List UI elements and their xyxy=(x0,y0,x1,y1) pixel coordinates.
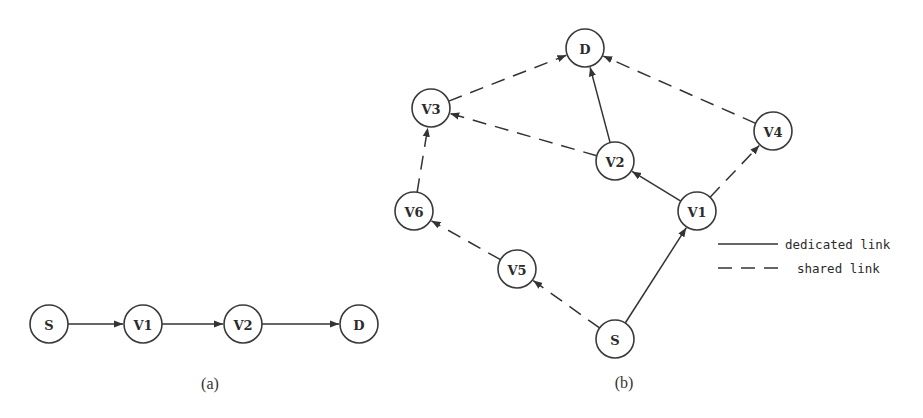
network-topology-figure: SV1V2D (a) DV3V4V2V6V1V5S (b) dedicated … xyxy=(0,0,923,418)
node-v4: V4 xyxy=(754,112,792,150)
subfigure-a: SV1V2D (a) xyxy=(30,305,378,393)
node-label: D xyxy=(353,318,364,333)
node-label: S xyxy=(44,318,53,333)
legend-item-dedicated: dedicated link xyxy=(718,237,891,252)
node-d: D xyxy=(566,29,604,67)
node-v1: V1 xyxy=(678,192,716,230)
node-v3: V3 xyxy=(412,89,450,127)
node-s: S xyxy=(30,305,68,343)
edge-v1-to-v4-shared xyxy=(710,145,759,197)
node-label: V3 xyxy=(420,102,440,117)
node-label: V1 xyxy=(132,318,152,333)
caption-b: (b) xyxy=(615,374,634,392)
node-v1: V1 xyxy=(124,305,162,343)
subfigure-b: DV3V4V2V6V1V5S (b) xyxy=(395,29,792,392)
node-label: V1 xyxy=(686,205,706,220)
node-v5: V5 xyxy=(498,250,536,288)
legend-label: shared link xyxy=(797,261,880,276)
node-v6: V6 xyxy=(395,192,433,230)
caption-a: (a) xyxy=(201,375,219,393)
edge-s-to-v5-shared xyxy=(533,281,599,328)
edge-v3-to-d-shared xyxy=(449,55,567,101)
legend-label: dedicated link xyxy=(785,237,891,252)
node-s: S xyxy=(596,320,634,358)
node-label: V5 xyxy=(506,263,526,278)
edge-v2-to-d-dedicated xyxy=(590,67,610,142)
edge-v2-to-v3-shared xyxy=(450,114,597,156)
edge-s-to-v1-dedicated xyxy=(625,228,686,323)
node-label: D xyxy=(579,42,590,57)
legend-item-shared: shared link xyxy=(718,261,880,276)
node-d: D xyxy=(340,305,378,343)
node-label: V4 xyxy=(762,125,782,140)
node-label: S xyxy=(610,333,619,348)
edge-v4-to-d-shared xyxy=(603,56,755,123)
edge-v1-to-v2-dedicated xyxy=(632,171,681,201)
node-label: V2 xyxy=(232,318,252,333)
node-label: V6 xyxy=(403,205,423,220)
node-v2: V2 xyxy=(596,142,634,180)
node-label: V2 xyxy=(604,155,624,170)
node-v2: V2 xyxy=(224,305,262,343)
subfigure-b-edges xyxy=(417,55,759,328)
edge-v6-to-v3-shared xyxy=(417,128,428,193)
edge-v5-to-v6-shared xyxy=(431,221,500,260)
legend: dedicated linkshared link xyxy=(718,237,891,276)
